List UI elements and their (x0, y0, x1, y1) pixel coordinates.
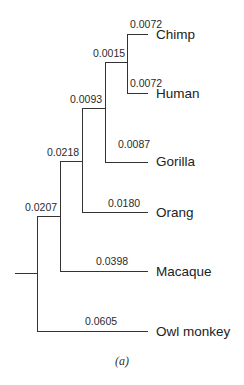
great-ape-node-branch (60, 161, 83, 162)
branch-length-macaque: 0.0398 (96, 256, 128, 267)
branch-length-catarrhine-node: 0.0207 (25, 202, 57, 213)
branch-length-great-ape-node: 0.0218 (47, 147, 79, 158)
taxon-label-orang: Orang (156, 206, 194, 220)
branch-length-orang: 0.0180 (108, 198, 140, 209)
orang-branch (82, 212, 148, 213)
owl-monkey-branch (37, 331, 148, 332)
chimp-branch (127, 34, 148, 35)
african-ape-node-line (105, 62, 106, 163)
branch-length-chimp-human-node: 0.0015 (93, 48, 125, 59)
taxon-label-chimp: Chimp (156, 28, 195, 42)
taxon-label-owl-monkey: Owl monkey (156, 325, 230, 339)
catarrhine-node-line (60, 161, 61, 272)
african-ape-node-branch (82, 108, 106, 109)
root-branch (15, 273, 38, 274)
chimp-human-node-line (127, 34, 128, 94)
taxon-label-macaque: Macaque (156, 265, 212, 279)
branch-length-owl-monkey: 0.0605 (85, 316, 117, 327)
root-node-line (37, 216, 38, 332)
chimp-human-node-branch (105, 62, 128, 63)
figure-caption: (a) (115, 355, 129, 367)
great-ape-node-line (82, 108, 83, 213)
human-branch (127, 93, 148, 94)
branch-length-african-ape-node: 0.0093 (70, 94, 102, 105)
catarrhine-node-branch (37, 216, 61, 217)
taxon-label-gorilla: Gorilla (156, 155, 195, 169)
phylogenetic-tree: 0.0072 0.0015 0.0072 0.0093 0.0087 0.021… (0, 0, 244, 385)
macaque-branch (60, 271, 148, 272)
branch-length-gorilla: 0.0087 (118, 139, 150, 150)
gorilla-branch (105, 162, 148, 163)
taxon-label-human: Human (156, 87, 200, 101)
